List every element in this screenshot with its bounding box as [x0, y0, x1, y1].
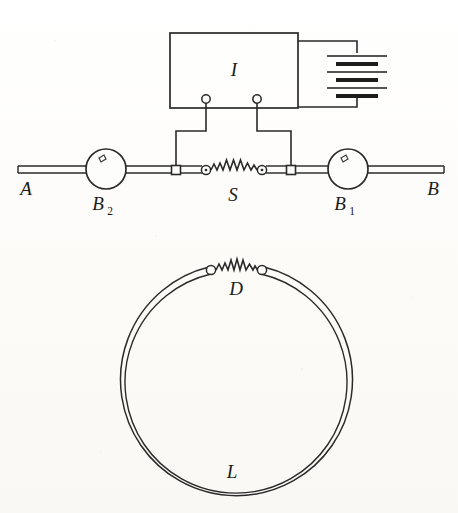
coil-box-label: I — [230, 59, 239, 80]
loop-label: L — [226, 461, 238, 482]
spark-gap-D — [206, 259, 266, 275]
spark-gap-S — [201, 160, 266, 175]
spark-gap-D-zigzag — [216, 259, 258, 270]
spark-gap-S-label: S — [228, 184, 238, 205]
line-right-end-label: B — [427, 178, 439, 199]
coil-terminal-right — [253, 95, 261, 103]
instrument-B2-body — [86, 149, 126, 189]
induction-coil-circuit: I — [18, 33, 444, 217]
battery-stack — [327, 56, 387, 96]
spark-gap-S-zigzag — [211, 160, 257, 170]
instrument-B1-label-sub: 1 — [349, 205, 355, 217]
spark-gap-D-label: D — [228, 278, 243, 299]
instrument-B2-label: B — [92, 193, 104, 214]
instrument-B2-label-sub: 2 — [107, 205, 113, 217]
spark-gap-S-node-right-dot — [261, 169, 264, 172]
instrument-B2 — [86, 149, 126, 189]
connector-block-left — [172, 166, 181, 175]
resonant-loop: D L — [120, 259, 352, 496]
circuit-diagram-svg: I — [0, 0, 458, 513]
line-left-end-label: A — [18, 178, 32, 199]
instrument-B1 — [328, 149, 368, 189]
lead-left — [176, 103, 206, 166]
spark-gap-D-node-right — [257, 265, 266, 274]
connector-block-right — [287, 166, 296, 175]
instrument-B1-label: B — [334, 193, 346, 214]
circuit-figure: I — [0, 0, 458, 513]
spark-gap-D-node-left — [206, 265, 215, 274]
instrument-B1-body — [328, 149, 368, 189]
coil-terminal-left — [202, 95, 210, 103]
spark-gap-S-node-left-dot — [205, 169, 208, 172]
lead-right — [257, 103, 291, 166]
